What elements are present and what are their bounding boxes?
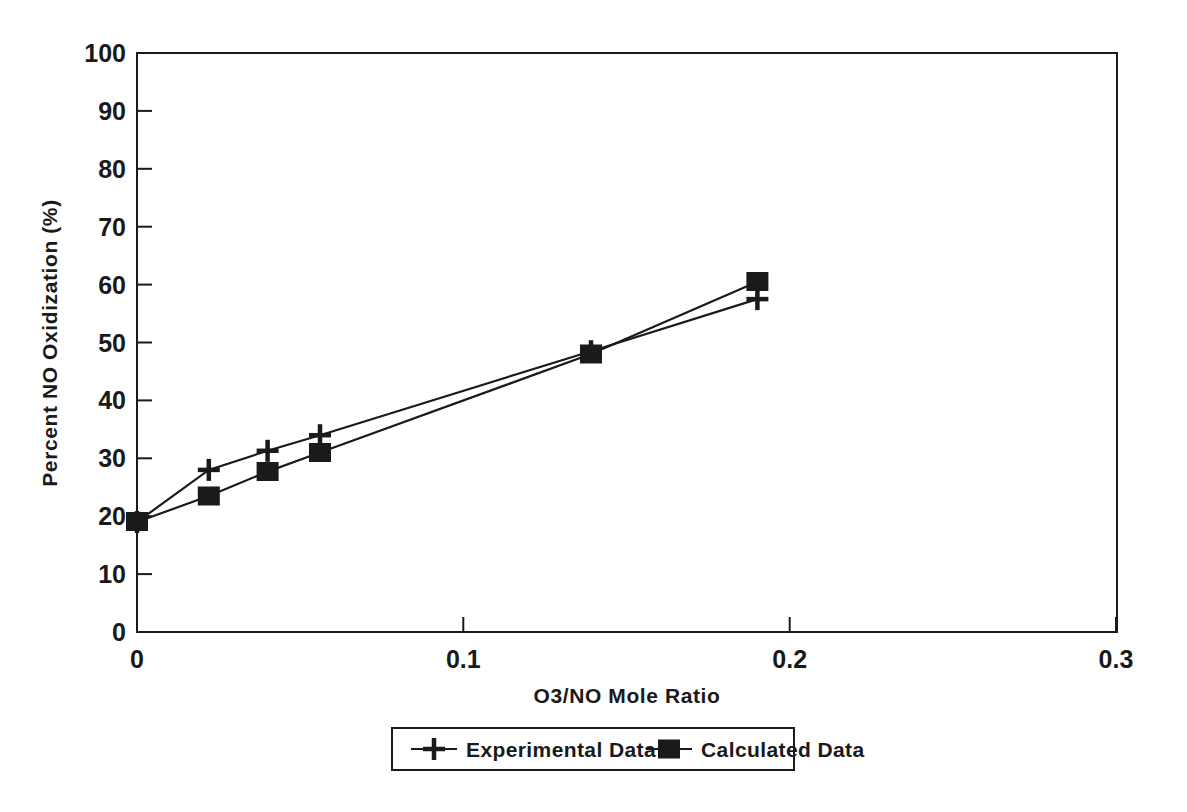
square-marker-icon [658,740,680,759]
y-axis-ticks [137,53,152,632]
calculated-data-line [137,282,757,522]
experimental-data-line [137,299,757,522]
x-axis-ticks [137,617,1116,632]
y-tick-label-100: 100 [84,39,126,67]
legend-item-experimental-data[interactable]: Experimental Data [411,738,656,761]
chart-figure: 0 10 20 30 40 50 60 70 80 90 100 0 0.1 0… [0,0,1187,812]
y-axis-tick-labels: 0 10 20 30 40 50 60 70 80 90 100 [84,39,126,646]
experimental-data-marker [257,440,279,462]
y-axis-title: Percent NO Oxidization (%) [38,199,61,486]
y-tick-label-20: 20 [98,502,126,530]
series-calculated-data [126,272,768,531]
x-tick-label-0p3: 0.3 [1099,645,1134,673]
y-tick-label-90: 90 [98,97,126,125]
y-tick-label-50: 50 [98,329,126,357]
legend-label-calculated-data: Calculated Data [701,738,865,761]
x-tick-label-0p1: 0.1 [446,645,481,673]
experimental-data-marker [309,424,331,446]
x-axis-title: O3/NO Mole Ratio [534,684,721,707]
x-axis-tick-labels: 0 0.1 0.2 0.3 [130,645,1133,673]
series-experimental-data [126,288,768,533]
chart-legend: Experimental Data Calculated Data [392,728,865,770]
y-tick-label-0: 0 [112,618,126,646]
plot-frame [137,53,1117,632]
y-tick-label-40: 40 [98,386,126,414]
calculated-data-marker [257,462,279,481]
y-tick-label-30: 30 [98,444,126,472]
plus-marker-icon [423,738,445,760]
experimental-data-marker [746,288,768,310]
y-tick-label-10: 10 [98,560,126,588]
y-tick-label-80: 80 [98,155,126,183]
y-tick-label-70: 70 [98,213,126,241]
legend-label-experimental-data: Experimental Data [466,738,656,761]
chart-canvas: 0 10 20 30 40 50 60 70 80 90 100 0 0.1 0… [0,0,1187,812]
experimental-data-marker [198,459,220,481]
calculated-data-marker [198,487,220,506]
x-tick-label-0p2: 0.2 [772,645,807,673]
legend-item-calculated-data[interactable]: Calculated Data [646,738,865,761]
x-tick-label-0: 0 [130,645,144,673]
y-tick-label-60: 60 [98,271,126,299]
